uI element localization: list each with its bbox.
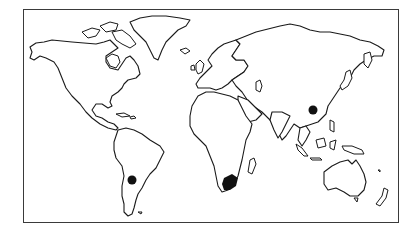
- south-america: [114, 128, 164, 216]
- world-map: [0, 0, 414, 234]
- iceland: [180, 48, 190, 54]
- australia: [324, 160, 366, 196]
- arctic-island-1: [82, 28, 100, 38]
- tasmania: [354, 198, 358, 202]
- philippines: [330, 120, 334, 132]
- arctic-island-2: [100, 22, 118, 32]
- kamchatka: [364, 52, 372, 68]
- asia: [232, 24, 384, 140]
- indochina: [298, 126, 310, 146]
- marker-china[interactable]: [309, 106, 318, 115]
- pacific-island: [378, 170, 380, 172]
- hispaniola: [130, 116, 136, 119]
- borneo: [316, 138, 326, 148]
- madagascar: [248, 158, 256, 174]
- java: [310, 158, 322, 160]
- falkland-islands: [138, 212, 142, 214]
- new-zealand: [376, 188, 388, 206]
- new-guinea: [342, 146, 364, 154]
- cuba: [116, 113, 130, 117]
- ireland: [191, 65, 195, 70]
- sulawesi: [330, 140, 336, 150]
- great-britain: [196, 60, 204, 74]
- caspian-sea: [256, 80, 262, 92]
- marker-argentina[interactable]: [128, 176, 137, 185]
- greenland: [130, 16, 190, 60]
